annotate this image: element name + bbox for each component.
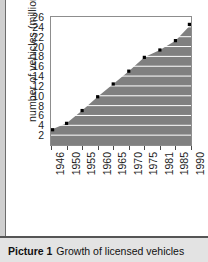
y-tick-label: 24 [32,22,44,33]
x-tick-mark [51,146,52,150]
figure-page: number of vehicles (millions) 2468101214… [0,0,208,262]
x-tick-label: 1990 [195,152,206,175]
x-tick-label: 1970 [133,152,144,175]
x-tick-label: 1975 [148,152,159,175]
caption-description: Growth of licensed vehicles [56,245,184,257]
y-tick-label: 20 [32,41,44,52]
caption-label: Picture 1 [8,245,52,257]
y-tick-label: 26 [32,12,44,23]
data-point-marker [188,23,191,26]
x-tick-label: 1985 [179,152,190,175]
x-tick-label: 1981 [164,152,175,175]
x-tick-label: 1946 [55,152,66,175]
figure-caption: Picture 1Growth of licensed vehicles [8,245,184,257]
x-tick-mark [175,146,176,150]
plot-area [50,16,192,146]
caption-divider [0,236,208,238]
y-tick-label: 12 [32,81,44,92]
x-axis-tick-labels: 1946195019551960196519701975198119851990 [50,152,192,194]
x-tick-mark [113,146,114,150]
x-tick-label: 1960 [102,152,113,175]
area-series-svg [51,17,191,145]
y-tick-label: 4 [38,120,44,131]
y-tick-label: 18 [32,51,44,62]
y-tick-label: 2 [38,130,44,141]
data-point-marker [112,82,115,85]
x-tick-label: 1955 [86,152,97,175]
x-tick-label: 1950 [71,152,82,175]
data-point-marker [158,48,161,51]
x-tick-mark [191,146,192,150]
y-tick-label: 14 [32,71,44,82]
y-tick-label: 10 [32,91,44,102]
x-tick-mark [160,146,161,150]
x-tick-mark [129,146,130,150]
x-tick-mark [82,146,83,150]
y-tick-label: 8 [38,100,44,111]
x-tick-mark [144,146,145,150]
x-tick-mark [98,146,99,150]
y-tick-label: 16 [32,61,44,72]
data-point-marker [143,56,146,59]
data-point-marker [127,70,130,73]
data-point-marker [81,109,84,112]
chart-figure: number of vehicles (millions) 2468101214… [6,0,208,236]
data-point-marker [65,122,68,125]
area-fill [51,24,191,145]
data-point-marker [51,128,54,131]
data-point-marker [174,39,177,42]
y-axis-tick-labels: 2468101214161820222426 [18,16,48,146]
y-tick-label: 22 [32,31,44,42]
x-tick-mark [67,146,68,150]
x-axis-tick-marks [50,146,192,151]
y-tick-label: 6 [38,110,44,121]
x-tick-label: 1965 [117,152,128,175]
data-point-marker [96,95,99,98]
